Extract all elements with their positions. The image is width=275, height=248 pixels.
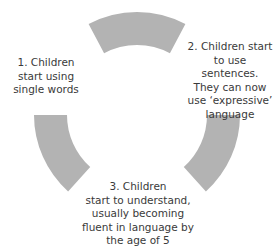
stage-2-label: 2. Children start to use sentences. They… bbox=[185, 40, 275, 121]
arc-segment-top bbox=[89, 12, 186, 53]
stage-3-label: 3. Children start to understand, usually… bbox=[82, 180, 194, 248]
stage-1-label: 1. Children start using single words bbox=[8, 56, 84, 97]
